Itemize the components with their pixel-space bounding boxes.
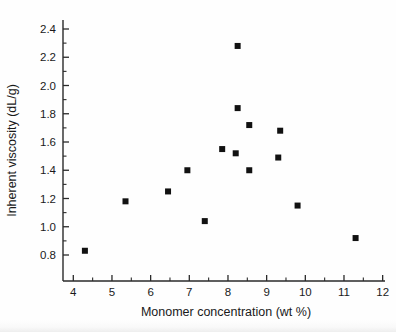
x-tick-label: 12 xyxy=(376,286,389,298)
data-point-marker xyxy=(353,235,359,241)
data-point-marker xyxy=(246,122,252,128)
x-tick-label: 6 xyxy=(147,286,153,298)
y-tick-label: 2.0 xyxy=(40,80,56,92)
x-tick-label: 11 xyxy=(338,286,350,298)
data-point-marker xyxy=(246,167,252,173)
y-tick-label: 2.2 xyxy=(40,51,56,63)
x-tick-label: 7 xyxy=(186,286,192,298)
x-tick-label: 9 xyxy=(263,286,269,298)
data-point-marker xyxy=(184,167,190,173)
data-point-marker xyxy=(277,128,283,134)
data-point-marker xyxy=(165,188,171,194)
y-tick-label: 0.8 xyxy=(40,249,56,261)
x-tick-label: 5 xyxy=(109,286,115,298)
scatter-plot-figure: 4567891011120.81.01.21.41.61.82.02.22.4M… xyxy=(0,0,396,332)
data-point-marker xyxy=(275,155,281,161)
data-point-marker xyxy=(202,218,208,224)
y-tick-label: 1.6 xyxy=(40,136,56,148)
y-axis-title: Inherent viscosity (dL/g) xyxy=(5,84,19,217)
y-tick-label: 1.4 xyxy=(40,164,57,176)
x-tick-label: 8 xyxy=(225,286,231,298)
data-point-marker xyxy=(219,146,225,152)
y-tick-label: 1.0 xyxy=(40,221,56,233)
x-tick-label: 10 xyxy=(299,286,312,298)
data-point-marker xyxy=(82,248,88,254)
y-tick-label: 1.8 xyxy=(40,108,56,120)
y-tick-label: 1.2 xyxy=(40,193,56,205)
scatter-plot-canvas: 4567891011120.81.01.21.41.61.82.02.22.4M… xyxy=(0,0,396,332)
data-point-marker xyxy=(123,198,129,204)
data-point-marker xyxy=(235,43,241,49)
y-tick-label: 2.4 xyxy=(40,23,57,35)
x-axis-title: Monomer concentration (wt %) xyxy=(141,305,311,319)
data-point-marker xyxy=(235,105,241,111)
data-point-marker xyxy=(295,203,301,209)
x-tick-label: 4 xyxy=(70,286,77,298)
data-point-marker xyxy=(233,150,239,156)
